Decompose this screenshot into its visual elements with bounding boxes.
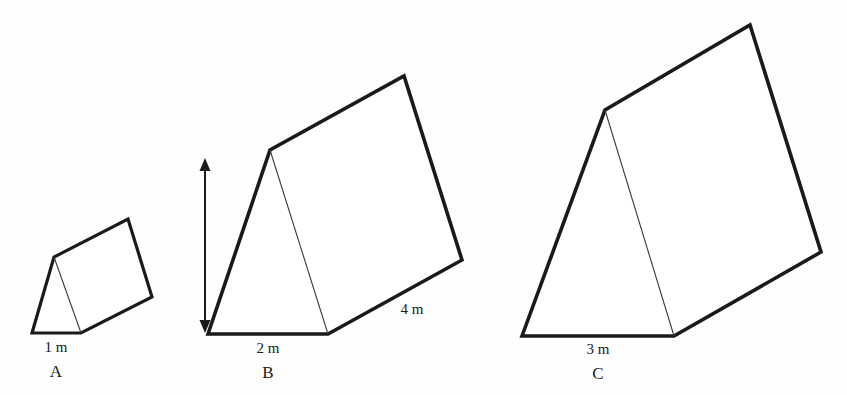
prism-b-group: 2 m B 4 m [208,76,462,382]
prism-c-base-dimension-label: 3 m [587,341,610,357]
prism-c-identifier-label: C [592,364,603,383]
prism-b-slant-dimension-label: 4 m [401,301,424,317]
prism-c-outline [522,25,821,336]
prism-b-outline [208,76,462,334]
prism-a-base-dimension-label: 1 m [45,339,68,355]
prism-a-outline [32,219,152,333]
prism-a-identifier-label: A [50,362,63,381]
prism-figure-canvas: 1 m A 2 m B 4 m 3 m 3 m C [0,0,847,395]
prism-b-identifier-label: B [262,363,273,382]
prism-c-group: 3 m C [522,25,821,383]
prism-b-base-dimension-label: 2 m [257,340,280,356]
height-dimension-arrowhead-top [200,158,211,171]
prism-a-group: 1 m A [32,219,152,381]
height-dimension-label: 3 m [0,0,12,3]
